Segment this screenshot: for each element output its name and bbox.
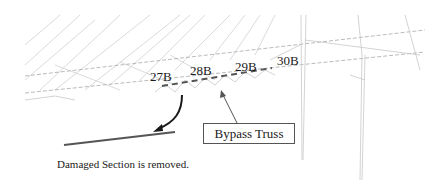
panel-label-27b: 27B — [150, 70, 172, 83]
vertical-members — [270, 15, 420, 180]
removal-arrow — [158, 95, 182, 129]
panel-label-30b: 30B — [277, 54, 299, 67]
diagram-caption: Damaged Section is removed. — [57, 158, 189, 170]
callout-leader — [223, 95, 237, 123]
panel-label-29b: 29B — [235, 60, 257, 73]
callout-arrowhead-icon — [220, 90, 226, 98]
bypass-truss-callout: Bypass Truss — [203, 123, 295, 144]
removal-arrowhead-icon — [153, 124, 163, 132]
removed-member-line — [64, 132, 175, 145]
panel-label-28b: 28B — [190, 64, 212, 77]
